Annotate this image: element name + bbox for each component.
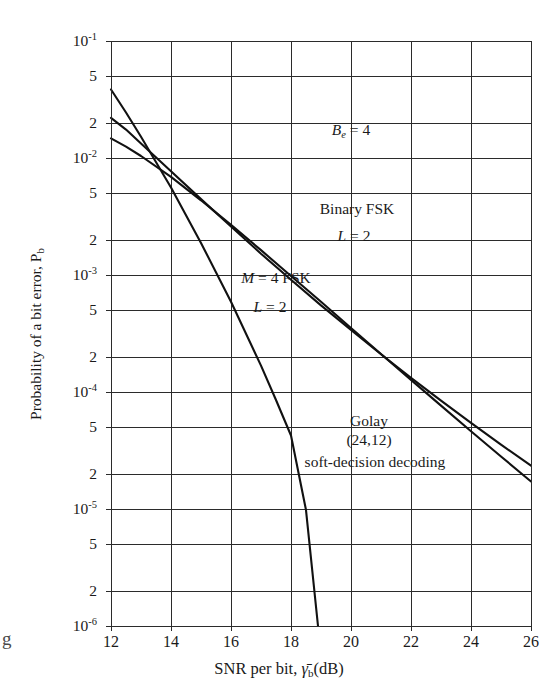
x-axis-title-subscript: b xyxy=(308,667,314,679)
annotation-binary-fsk-text: Binary FSK xyxy=(320,200,395,217)
annotation-m4-l-value: = 2 xyxy=(266,298,286,315)
y-axis-title-text: Probability of a bit error, P xyxy=(27,254,44,420)
annotation-be: Be = 4 xyxy=(332,121,370,140)
annotation-be-subscript: e xyxy=(341,129,346,140)
annotation-m4-fsk: M = 4 FSK xyxy=(241,269,310,288)
y-axis-title-subscript: b xyxy=(34,248,46,254)
x-tick-label: 20 xyxy=(343,634,359,650)
annotation-golay-params: (24,12) xyxy=(346,431,391,450)
x-axis-title-text: SNR per bit, xyxy=(214,659,301,678)
annotation-binary-l-value: = 2 xyxy=(350,227,370,244)
x-tick-label: 18 xyxy=(283,634,299,650)
x-tick-label: 24 xyxy=(463,634,479,650)
annotation-m4-symbol: M xyxy=(241,269,254,286)
annotation-golay-name: Golay xyxy=(350,412,388,431)
annotation-golay-decoding: soft-decision decoding xyxy=(305,453,446,472)
annotation-binary-fsk-diversity: L = 2 xyxy=(338,227,371,246)
x-axis-title-unit: (dB) xyxy=(313,659,343,678)
x-axis-title-gamma: γ̄ xyxy=(301,659,308,678)
x-tick-label: 12 xyxy=(103,634,119,650)
annotation-golay-params-text: (24,12) xyxy=(346,431,391,448)
page-edge-glyph: g xyxy=(2,628,12,650)
x-tick-label: 16 xyxy=(223,634,239,650)
annotation-binary-fsk: Binary FSK xyxy=(320,200,395,219)
annotation-m4-text: = 4 FSK xyxy=(258,269,311,286)
annotation-golay-name-text: Golay xyxy=(350,412,388,429)
ber-chart-figure: 10-15210-25210-35210-45210-55210-6 12141… xyxy=(0,0,558,700)
x-tick-label: 14 xyxy=(163,634,179,650)
x-tick-label: 22 xyxy=(403,634,419,650)
y-axis-title: Probability of a bit error, Pb xyxy=(27,194,45,474)
x-tick-label: 26 xyxy=(523,634,539,650)
annotation-be-value: = 4 xyxy=(350,121,370,138)
x-axis-tick-labels: 1214161820222426 xyxy=(0,0,558,700)
annotation-binary-l-symbol: L xyxy=(338,227,347,244)
x-axis-title: SNR per bit, γ̄b(dB) xyxy=(0,659,558,679)
annotation-m4-l-symbol: L xyxy=(254,298,263,315)
annotation-m4-fsk-diversity: L = 2 xyxy=(254,298,287,317)
annotation-golay-decoding-text: soft-decision decoding xyxy=(305,453,446,470)
